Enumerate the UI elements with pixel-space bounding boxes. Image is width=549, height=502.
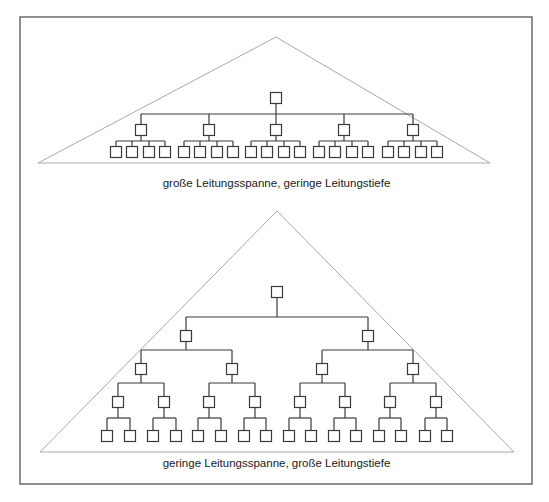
position-box — [385, 397, 396, 408]
hierarchy-triangle — [40, 211, 514, 452]
employee-box — [383, 147, 394, 158]
manager-box — [204, 125, 215, 136]
manager-box — [136, 125, 147, 136]
position-box — [374, 431, 385, 442]
employee-box — [314, 147, 325, 158]
employee-box — [363, 147, 374, 158]
caption-wide-span: große Leitungsspanne, geringe Leitungsti… — [0, 177, 549, 189]
position-box — [148, 431, 159, 442]
position-box — [216, 431, 227, 442]
position-box — [340, 397, 351, 408]
position-box — [351, 431, 362, 442]
position-box — [113, 397, 124, 408]
employee-box — [295, 147, 306, 158]
caption-deep-hierarchy: geringe Leitungsspanne, große Leitungsti… — [0, 457, 549, 469]
position-box — [317, 364, 328, 375]
employee-box — [160, 147, 171, 158]
manager-box — [408, 125, 419, 136]
employee-box — [432, 147, 443, 158]
position-box — [396, 431, 407, 442]
position-box — [171, 431, 182, 442]
position-box — [284, 431, 295, 442]
position-box — [193, 431, 204, 442]
employee-box — [262, 147, 273, 158]
employee-box — [212, 147, 223, 158]
position-box — [125, 431, 136, 442]
figure-frame — [20, 17, 532, 484]
deep-hierarchy-org-chart — [40, 211, 514, 452]
position-box — [363, 331, 374, 342]
position-box — [159, 397, 170, 408]
position-box — [420, 431, 431, 442]
position-box — [431, 397, 442, 408]
position-box — [261, 431, 272, 442]
employee-box — [228, 147, 239, 158]
position-box — [204, 397, 215, 408]
employee-box — [416, 147, 427, 158]
employee-box — [179, 147, 190, 158]
position-box — [136, 364, 147, 375]
position-box — [102, 431, 113, 442]
position-box — [306, 431, 317, 442]
employee-box — [347, 147, 358, 158]
employee-box — [399, 147, 410, 158]
position-box — [295, 397, 306, 408]
position-box — [442, 431, 453, 442]
wide-span-org-chart — [38, 37, 490, 163]
position-box — [250, 397, 261, 408]
employee-box — [195, 147, 206, 158]
manager-box — [271, 125, 282, 136]
root-box — [272, 287, 283, 298]
position-box — [239, 431, 250, 442]
employee-box — [279, 147, 290, 158]
position-box — [181, 331, 192, 342]
employee-box — [111, 147, 122, 158]
position-box — [227, 364, 238, 375]
position-box — [408, 364, 419, 375]
org-structure-diagram — [0, 0, 549, 502]
position-box — [329, 431, 340, 442]
employee-box — [127, 147, 138, 158]
hierarchy-triangle — [38, 37, 490, 163]
employee-box — [144, 147, 155, 158]
manager-box — [339, 125, 350, 136]
employee-box — [330, 147, 341, 158]
employee-box — [246, 147, 257, 158]
root-box — [271, 93, 282, 104]
